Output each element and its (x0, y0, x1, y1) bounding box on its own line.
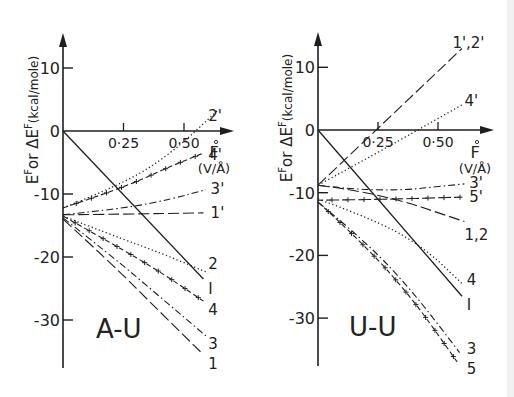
series-line-4p (63, 153, 203, 208)
series-line-4 (63, 216, 203, 301)
y-tick-label: -20 (34, 248, 60, 267)
series-label: I (208, 280, 212, 298)
y-tick-label: -30 (34, 311, 60, 330)
figure-canvas: 100-10-20-300·250·50F(V/Å)EFor ΔEF(kcal/… (0, 0, 514, 397)
series-line-1p-2p (318, 49, 462, 186)
series-line-3p (63, 190, 206, 215)
series-label: 3 (467, 340, 477, 358)
series-line-3p (318, 184, 464, 190)
series-label: 5' (469, 188, 483, 206)
panel-label: A-U (96, 314, 142, 344)
series-line-I (63, 131, 203, 279)
panel-a-u: 100-10-20-300·250·50F(V/Å)EFor ΔEF(kcal/… (23, 33, 234, 373)
y-tick-label: -20 (289, 246, 315, 265)
panel-u-u: 100-10-20-300·250·50F(V/Å)EFor ΔEF(kcal/… (277, 32, 494, 378)
series-label: 2' (208, 107, 222, 125)
scan-edge-band (507, 0, 514, 397)
y-axis-label: EFor ΔEF(kcal/mole) (277, 54, 296, 182)
y-tick-label: 0 (305, 121, 315, 140)
series-label: 4 (467, 271, 477, 289)
series-line-5p (318, 197, 462, 200)
y-tick-label: 10 (40, 59, 60, 78)
series-label: 1' (211, 204, 225, 222)
y-tick-label: -10 (289, 184, 315, 203)
x-axis-label: F (470, 143, 479, 162)
panel-label: U-U (349, 312, 396, 342)
y-tick-label: -30 (289, 309, 315, 328)
y-tick-label: 0 (50, 122, 60, 141)
x-tick-label: 0·50 (168, 135, 199, 151)
x-tick-label: 0·25 (362, 134, 393, 150)
series-label: 4' (464, 92, 478, 110)
y-axis-label: EFor ΔEF(kcal/mole) (23, 56, 42, 184)
series-label: 3 (208, 335, 218, 353)
series-label: 5 (467, 360, 477, 378)
series-label: 1',2' (452, 34, 484, 52)
y-tick-label: -10 (34, 185, 60, 204)
y-tick-label: 10 (295, 58, 315, 77)
x-axis-arrow-icon (480, 126, 494, 134)
series-label: 4' (208, 146, 222, 164)
series-line-1-2 (318, 185, 464, 221)
series-label: 2 (208, 255, 218, 273)
series-label: 4 (208, 301, 218, 319)
x-axis-arrow-icon (220, 127, 234, 135)
chart-svg: 100-10-20-300·250·50F(V/Å)EFor ΔEF(kcal/… (0, 0, 514, 397)
series-line-2 (63, 216, 208, 273)
series-label: 1,2 (464, 226, 488, 244)
series-label: 1 (208, 355, 218, 373)
y-axis-arrow-icon (314, 32, 322, 46)
series-line-1p (63, 213, 203, 215)
x-tick-label: 0·50 (422, 134, 453, 150)
x-tick-label: 0·25 (108, 135, 139, 151)
y-axis-arrow-icon (59, 33, 67, 47)
series-label: 3' (211, 180, 225, 198)
series-label: I (467, 296, 471, 314)
